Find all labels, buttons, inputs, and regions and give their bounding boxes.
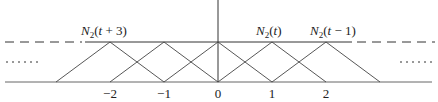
tick-label: 0 (215, 86, 222, 101)
hat-function-peak-1 (218, 42, 326, 82)
tick-label: −1 (157, 86, 171, 101)
label-n2-t: N2(t) (255, 23, 281, 40)
label-n2-t-minus-1: N2(t − 1) (309, 23, 356, 40)
tick-label: −2 (103, 86, 117, 101)
hat-function-peak-2 (272, 42, 380, 82)
hat-function-diagram: N2(t + 3) N2(t) N2(t − 1) −2 −1 0 1 2 (0, 0, 438, 102)
tick-label: 2 (323, 86, 330, 101)
hat-function-peak-minus-1 (110, 42, 218, 82)
hat-function-peak-minus-2 (56, 42, 164, 82)
tick-label: 1 (269, 86, 276, 101)
label-n2-t-plus-3: N2(t + 3) (80, 23, 127, 40)
